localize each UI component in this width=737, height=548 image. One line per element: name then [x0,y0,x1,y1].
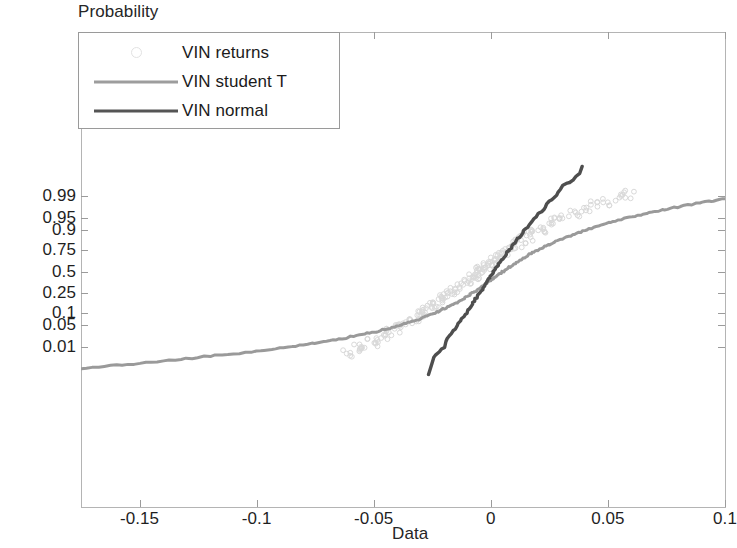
series-line-vin-student-t [82,199,725,369]
line-sample-icon [90,72,182,92]
y-tick-label: 0.75 [43,240,77,260]
legend-line-swatch [94,109,178,112]
x-tick-label: -0.15 [120,509,159,529]
x-tick-label: 0.1 [713,509,737,529]
x-tick-label: -0.1 [242,509,272,529]
x-tick-label: -0.05 [354,509,393,529]
legend-item[interactable]: VIN student T [79,67,339,96]
legend-line-swatch [94,80,178,83]
legend-item[interactable]: VIN returns [79,38,339,67]
legend-item-label: VIN returns [182,43,269,63]
x-tick-label: 0 [486,509,496,529]
data-series-group [82,166,725,374]
legend-item-label: VIN normal [182,101,268,121]
legend-circle-marker [131,47,142,58]
legend-item[interactable]: VIN normal [79,96,339,125]
circle-marker-icon [90,43,182,63]
x-tick-label: 0.05 [591,509,625,529]
y-tick-label: 0.5 [52,262,76,282]
legend-item-label: VIN student T [182,72,287,92]
series-scatter-vin-returns [341,188,637,359]
y-tick-label: 0.05 [43,315,77,335]
y-tick-label: 0.25 [43,283,77,303]
chart-legend: VIN returnsVIN student TVIN normal [78,32,340,129]
y-tick-label: 0.99 [43,186,77,206]
y-tick-label: 0.9 [52,220,76,240]
x-axis-title: Data [392,524,428,544]
line-sample-icon [90,101,182,121]
y-tick-label: 0.01 [43,337,77,357]
probability-plot-figure: Probability 0.990.950.90.750.50.250.10.0… [0,0,737,548]
